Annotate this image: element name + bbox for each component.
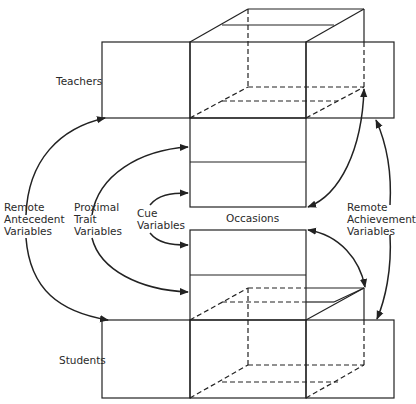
teachers-block xyxy=(102,9,394,118)
teachers-front-face xyxy=(102,42,190,118)
remote-achievement-label: Remote Achievement Variables xyxy=(347,201,416,237)
students-front-face xyxy=(102,320,190,398)
arrow-remote-achievement-to-teachers xyxy=(376,120,390,205)
students-right-face xyxy=(306,320,394,398)
remote-achievement-line-2: Achievement xyxy=(347,213,416,225)
remote-antecedent-line-1: Remote xyxy=(4,201,65,213)
proximal-trait-label: Proximal Trait Variables xyxy=(74,201,122,237)
remote-achievement-line-1: Remote xyxy=(347,201,416,213)
remote-achievement-line-3: Variables xyxy=(347,225,416,237)
remote-antecedent-line-2: Antecedent xyxy=(4,213,65,225)
remote-antecedent-label: Remote Antecedent Variables xyxy=(4,201,65,237)
cue-variables-label: Cue Variables xyxy=(137,207,185,231)
proximal-trait-line-2: Trait xyxy=(74,213,122,225)
arrow-cue-to-occasions-lower xyxy=(150,233,188,245)
arrow-remote-antecedent-to-students xyxy=(26,238,108,320)
arrow-proximal-to-occasions-lower xyxy=(92,238,188,292)
arrow-remote-achievement-to-students xyxy=(377,235,390,319)
teachers-right-face xyxy=(306,42,394,118)
arrow-teachers-to-occasions xyxy=(308,89,364,207)
occasions-label: Occasions xyxy=(226,212,279,224)
teachers-label: Teachers xyxy=(56,75,102,87)
proximal-trait-line-3: Variables xyxy=(74,225,122,237)
arrow-cue-to-occasions-upper xyxy=(150,193,188,205)
students-block xyxy=(102,288,394,398)
cue-line-1: Cue xyxy=(137,207,185,219)
remote-antecedent-line-3: Variables xyxy=(4,225,65,237)
students-label: Students xyxy=(59,354,106,366)
arrow-occasions-to-students xyxy=(308,230,365,287)
cue-line-2: Variables xyxy=(137,219,185,231)
proximal-trait-line-1: Proximal xyxy=(74,201,122,213)
